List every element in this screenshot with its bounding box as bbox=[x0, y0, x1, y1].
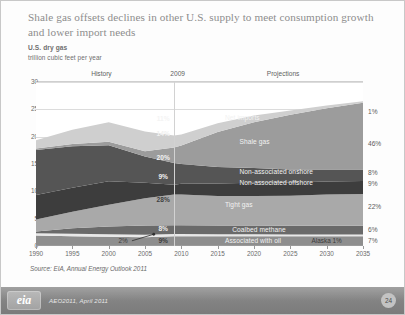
x-axis-tick-mark bbox=[363, 246, 364, 249]
area-layer-label: Tight gas bbox=[225, 201, 253, 208]
y-axis-tick-label: 25 bbox=[14, 105, 38, 112]
chart-subtitle: U.S. dry gas bbox=[28, 44, 67, 51]
share-label-2035: 9% bbox=[368, 180, 378, 187]
share-label-2009: 9% bbox=[158, 173, 168, 180]
slide-footer: eia AEO2011, April 2011 24 bbox=[1, 287, 404, 314]
x-axis-tick-label: 2035 bbox=[356, 250, 370, 257]
x-axis-tick-mark bbox=[181, 246, 182, 249]
y-axis-tick-label: 20 bbox=[14, 133, 38, 140]
x-axis-tick-label: 2020 bbox=[247, 250, 261, 257]
share-label-2009: 8% bbox=[158, 225, 168, 232]
x-axis-tick-label: 1990 bbox=[29, 250, 43, 257]
area-layer-label: Non-associated offshore bbox=[239, 179, 313, 186]
x-axis-tick-label: 2030 bbox=[320, 250, 334, 257]
y-axis-tick-label: 5 bbox=[14, 215, 38, 222]
area-layer-label: Non-associated onshore bbox=[239, 168, 313, 175]
x-axis-tick-label: 2000 bbox=[102, 250, 116, 257]
share-label-2035: 22% bbox=[368, 203, 381, 210]
share-label-2009: 9% bbox=[158, 237, 168, 244]
region-label-history: History bbox=[91, 70, 112, 77]
share-label-2009: 20% bbox=[157, 154, 170, 161]
x-axis-tick-mark bbox=[72, 246, 73, 249]
x-axis-tick-mark bbox=[36, 246, 37, 249]
x-axis-tick-label: 2015 bbox=[211, 250, 225, 257]
chart-annotation: Alaska 1% bbox=[312, 237, 342, 244]
x-axis-tick-label: 2005 bbox=[138, 250, 152, 257]
region-label-projections: Projections bbox=[267, 70, 300, 77]
chart-plot-area bbox=[36, 82, 363, 246]
area-layer-label: Associated with oil bbox=[225, 237, 281, 244]
footer-caption: AEO2011, April 2011 bbox=[49, 298, 108, 304]
x-axis-tick-mark bbox=[290, 246, 291, 249]
slide: Shale gas offsets declines in other U.S.… bbox=[0, 0, 405, 315]
page-title: Shale gas offsets declines in other U.S.… bbox=[28, 10, 378, 40]
share-label-2035: 6% bbox=[368, 226, 378, 233]
stacked-area-chart bbox=[36, 82, 363, 246]
share-label-2035: 7% bbox=[368, 237, 378, 244]
share-label-2035: 46% bbox=[368, 140, 381, 147]
x-axis-line bbox=[36, 245, 363, 246]
y-axis-tick-label: 10 bbox=[14, 187, 38, 194]
area-layer-label: Coalbed methane bbox=[232, 226, 286, 233]
x-axis-tick-mark bbox=[218, 246, 219, 249]
region-label-2009: 2009 bbox=[170, 70, 185, 77]
year-divider-2009 bbox=[174, 82, 175, 246]
share-label-2009: 28% bbox=[157, 196, 170, 203]
eia-logo: eia bbox=[7, 291, 41, 310]
x-axis-tick-mark bbox=[327, 246, 328, 249]
share-label-2035: 1% bbox=[368, 108, 378, 115]
chart-units-label: trillion cubic feet per year bbox=[28, 54, 102, 61]
share-label-2009: 14% bbox=[157, 130, 170, 137]
y-axis-tick-label: 15 bbox=[14, 160, 38, 167]
x-axis-tick-mark bbox=[109, 246, 110, 249]
x-axis-tick-mark bbox=[145, 246, 146, 249]
share-label-2009: 11% bbox=[157, 115, 170, 122]
x-axis-tick-label: 2025 bbox=[283, 250, 297, 257]
y-axis-tick-label: 30 bbox=[14, 78, 38, 85]
area-layer-label: Shale gas bbox=[239, 138, 269, 145]
chart-annotation: 2% bbox=[119, 237, 128, 244]
x-axis-tick-label: 2010 bbox=[174, 250, 188, 257]
x-axis-tick-mark bbox=[254, 246, 255, 249]
share-label-2035: 8% bbox=[368, 169, 378, 176]
x-axis-tick-label: 1995 bbox=[65, 250, 79, 257]
source-note: Source: EIA, Annual Energy Outlook 2011 bbox=[30, 265, 147, 272]
area-layer-label: Net imports bbox=[225, 114, 260, 121]
page-number-badge: 24 bbox=[381, 293, 396, 308]
y-axis-tick-label: 0 bbox=[14, 242, 38, 249]
